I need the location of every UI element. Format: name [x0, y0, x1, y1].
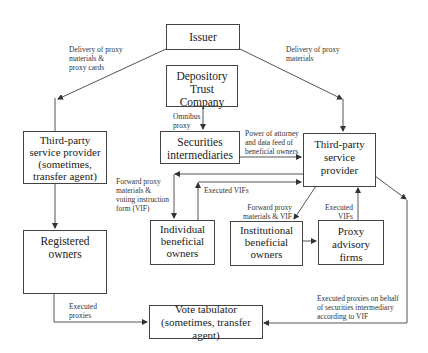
node-label: Third-party service provider [304, 138, 375, 177]
node-third-party-service-provider-right: Third-party service provider [303, 133, 376, 187]
node-securities-intermediaries: Securities intermediaries [160, 131, 240, 164]
edge-label-power-of-attorney: Power of attorney and data feed of benef… [245, 129, 299, 156]
node-registered-owners: Registered owners [23, 230, 107, 294]
edge-label-omnibus-proxy: Omnibus proxy [173, 112, 201, 130]
node-label: Depository Trust Company [167, 70, 237, 109]
node-label: Registered owners [40, 235, 89, 261]
node-individual-beneficial-owners: Individual beneficial owners [150, 220, 215, 265]
node-label: Institutional beneficial owners [240, 224, 293, 260]
node-label: Third-party service provider (sometimes,… [29, 134, 100, 182]
edge-label-forward-proxy-vif: Forward proxy materials & voting instruc… [116, 177, 169, 213]
node-third-party-service-provider-left: Third-party service provider (sometimes,… [23, 131, 107, 184]
node-label: Individual beneficial owners [160, 223, 205, 259]
node-label: Issuer [189, 31, 216, 44]
node-vote-tabulator: Vote tabulator (sometimes, transfer agen… [149, 305, 263, 339]
edge-label-issuer-to-left: Delivery of proxy materials & proxy card… [69, 45, 123, 72]
edge-label-executed-vifs-advisory: Executed VIFs [325, 203, 353, 221]
node-institutional-beneficial-owners: Institutional beneficial owners [230, 221, 303, 266]
proxy-voting-diagram: Issuer Depository Trust Company Securiti… [0, 0, 428, 353]
node-label: Securities intermediaries [167, 136, 233, 162]
edge-label-executed-vifs-individual: Executed VIFs [204, 186, 249, 195]
edge-label-executed-proxies: Executed proxies [69, 302, 97, 320]
node-depository-trust-company: Depository Trust Company [166, 65, 238, 107]
node-issuer: Issuer [166, 24, 240, 50]
node-label: Vote tabulator (sometimes, transfer agen… [150, 303, 262, 342]
node-proxy-advisory-firms: Proxy advisory firms [318, 220, 384, 265]
edge-label-executed-proxies-intermediary: Executed proxies on behalf of securities… [317, 294, 399, 321]
node-label: Proxy advisory firms [319, 225, 383, 264]
edge-label-issuer-to-right: Delivery of proxy materials [286, 45, 340, 63]
edge-label-forward-proxy-institutional: Forward proxy materials & VIF [243, 203, 292, 221]
